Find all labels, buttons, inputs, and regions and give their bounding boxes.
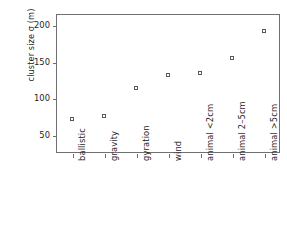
x-tick-line xyxy=(73,154,74,158)
chart-figure: cluster size σ (m) 50100150200 ballistic… xyxy=(0,0,287,229)
data-point xyxy=(262,29,266,33)
data-point xyxy=(70,117,74,121)
x-tick-line xyxy=(105,154,106,158)
y-tick-label: 150 xyxy=(34,57,50,67)
plot-area: 50100150200 ballisticgravitygyrationwind… xyxy=(56,14,280,153)
x-tick-line xyxy=(265,154,266,158)
x-tick-line xyxy=(169,154,170,158)
data-point xyxy=(134,86,138,90)
x-tick-line xyxy=(137,154,138,158)
y-tick-label: 200 xyxy=(34,20,50,30)
y-tick-label: 100 xyxy=(34,93,50,103)
x-tick-line xyxy=(233,154,234,158)
x-tick-line xyxy=(201,154,202,158)
y-tick-label: 50 xyxy=(39,130,50,140)
data-point xyxy=(102,114,106,118)
data-point xyxy=(198,71,202,75)
data-markers xyxy=(57,15,279,152)
data-point xyxy=(230,56,234,60)
data-point xyxy=(166,73,170,77)
